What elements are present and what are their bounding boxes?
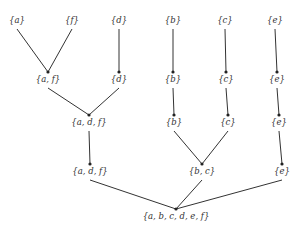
node-label-n_a: {a} xyxy=(9,15,25,25)
node-label-n_c3: {c} xyxy=(220,117,236,127)
merge-tree-diagram: {a}{f}{d}{b}{c}{e}{a, f}{d}{b}{c}{e}{a, … xyxy=(0,0,300,237)
edge-n_af-to-n_adf1 xyxy=(48,88,89,115)
edge-n_e1-to-n_e2 xyxy=(275,29,277,72)
edge-n_f-to-n_af xyxy=(48,29,72,72)
node-label-n_af: {a, f} xyxy=(36,74,60,84)
node-label-n_e4: {e} xyxy=(274,166,290,176)
node-label-n_c1: {c} xyxy=(217,15,233,25)
node-label-n_adf1: {a, d, f} xyxy=(71,117,106,127)
edge-n_e4-to-n_root xyxy=(176,180,282,209)
edge-n_adf1-to-n_adf2 xyxy=(89,131,90,164)
node-label-n_bc: {b, c} xyxy=(189,166,215,176)
node-label-n_e3: {e} xyxy=(271,117,287,127)
node-label-n_c2: {c} xyxy=(218,74,234,84)
node-label-n_e2: {e} xyxy=(269,74,285,84)
node-label-n_root: {a, b, c, d, e, f} xyxy=(143,211,210,221)
node-label-n_b1: {b} xyxy=(165,15,181,25)
node-label-n_b3: {b} xyxy=(166,117,182,127)
edge-n_c1-to-n_c2 xyxy=(225,29,226,72)
edge-n_c3-to-n_bc xyxy=(202,131,228,164)
edge-n_adf2-to-n_root xyxy=(90,180,176,209)
node-label-n_d1: {d} xyxy=(111,15,127,25)
edge-n_a-to-n_af xyxy=(17,29,48,72)
edge-n_bc-to-n_root xyxy=(176,180,202,209)
edge-n_e3-to-n_e4 xyxy=(279,131,282,164)
node-label-n_f: {f} xyxy=(65,15,79,25)
node-label-n_adf2: {a, d, f} xyxy=(72,166,107,176)
node-label-n_e1: {e} xyxy=(267,15,283,25)
edge-n_e2-to-n_e3 xyxy=(277,88,279,115)
edge-n_b2-to-n_b3 xyxy=(173,88,174,115)
node-label-n_d2: {d} xyxy=(111,74,127,84)
node-label-n_b2: {b} xyxy=(165,74,181,84)
edge-n_d2-to-n_adf1 xyxy=(89,88,119,115)
edge-n_b3-to-n_bc xyxy=(174,131,202,164)
edge-n_c2-to-n_c3 xyxy=(226,88,228,115)
